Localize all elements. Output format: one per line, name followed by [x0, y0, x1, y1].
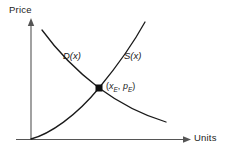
- demand-curve: [42, 30, 166, 122]
- y-axis: [28, 18, 34, 140]
- equilibrium-close-paren: ): [132, 81, 135, 91]
- x-axis-label: Units: [194, 132, 217, 143]
- demand-curve-label: D(x): [63, 50, 81, 61]
- equilibrium-point-label: (xE, pE): [106, 81, 135, 93]
- x-axis: [16, 136, 191, 142]
- supply-demand-chart: Price Units D(x) S(x) (xE, pE): [0, 0, 226, 162]
- supply-curve-label: S(x): [124, 50, 141, 61]
- equilibrium-marker: [96, 85, 103, 92]
- y-axis-label: Price: [9, 4, 32, 15]
- equilibrium-separator: ,: [118, 81, 121, 91]
